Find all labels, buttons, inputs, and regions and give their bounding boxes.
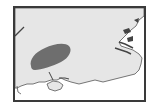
map-canvas — [15, 8, 144, 100]
map-frame — [13, 6, 146, 102]
land-area — [15, 8, 144, 88]
isle-of-wight[interactable] — [47, 81, 63, 91]
